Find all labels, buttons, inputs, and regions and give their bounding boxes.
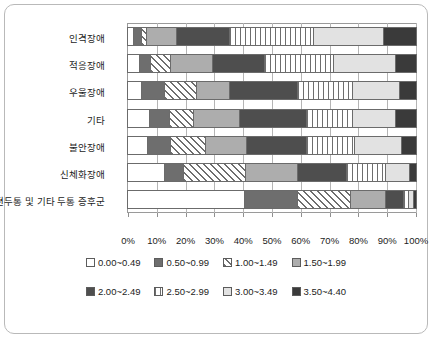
bar-segment[interactable]	[247, 137, 306, 154]
bar-segment[interactable]	[298, 82, 353, 99]
bar-segment[interactable]	[151, 55, 171, 72]
bar-segment[interactable]	[194, 110, 240, 127]
legend-item[interactable]: 0.50~0.99	[154, 257, 209, 268]
bar-segment[interactable]	[298, 191, 351, 208]
bar-segment[interactable]	[240, 110, 306, 127]
bar-segment[interactable]	[396, 110, 416, 127]
stacked-bar[interactable]	[127, 163, 417, 182]
category-label: 인격장애	[0, 31, 105, 45]
bar-segment[interactable]	[351, 191, 386, 208]
bar-row	[127, 81, 417, 100]
tick-mark	[301, 213, 302, 217]
bar-segment[interactable]	[177, 28, 230, 45]
bar-segment[interactable]	[213, 55, 265, 72]
bar-segment[interactable]	[128, 191, 245, 208]
bar-segment[interactable]	[402, 137, 416, 154]
stacked-bar[interactable]	[127, 81, 417, 100]
bar-segment[interactable]	[400, 82, 416, 99]
legend-label: 2.00~2.49	[98, 286, 141, 297]
category-label: 적응장애	[0, 58, 105, 72]
bar-segment[interactable]	[353, 110, 396, 127]
legend-item[interactable]: 2.50~2.99	[154, 286, 209, 297]
bar-segment[interactable]	[150, 110, 171, 127]
tick-mark	[387, 213, 388, 217]
bar-segment[interactable]	[353, 82, 401, 99]
bar-row	[127, 136, 417, 155]
bar-segment[interactable]	[128, 164, 165, 181]
bar-segment[interactable]	[171, 137, 206, 154]
stacked-bar[interactable]	[127, 136, 417, 155]
tick-mark	[128, 213, 129, 217]
bar-segment[interactable]	[197, 82, 230, 99]
x-tick-label: 70%	[320, 235, 339, 246]
legend-item[interactable]: 1.50~1.99	[292, 257, 347, 268]
legend-swatch	[154, 258, 163, 267]
bar-segment[interactable]	[128, 55, 140, 72]
bar-segment[interactable]	[206, 137, 248, 154]
legend-swatch	[154, 287, 163, 296]
bar-segment[interactable]	[128, 110, 150, 127]
bar-segment[interactable]	[245, 191, 298, 208]
legend-swatch	[223, 258, 232, 267]
bar-segment[interactable]	[314, 28, 385, 45]
bar-segment[interactable]	[298, 164, 347, 181]
x-tick-label: 40%	[234, 235, 253, 246]
stacked-bar[interactable]	[127, 27, 417, 46]
tick-mark	[186, 213, 187, 217]
legend-label: 3.00~3.49	[235, 286, 278, 297]
x-tick-label: 100%	[404, 235, 428, 246]
tick-mark	[330, 213, 331, 217]
legend-label: 0.00~0.49	[98, 257, 141, 268]
bar-segment[interactable]	[128, 137, 148, 154]
bar-segment[interactable]	[165, 82, 197, 99]
legend-row-1: 0.00~0.490.50~0.991.00~1.491.50~1.99	[5, 257, 427, 268]
x-tick-label: 60%	[291, 235, 310, 246]
bar-segment[interactable]	[307, 110, 353, 127]
legend-label: 0.50~0.99	[166, 257, 209, 268]
category-label: 신체화장애	[0, 167, 105, 181]
legend-item[interactable]: 0.00~0.49	[86, 257, 141, 268]
bar-segment[interactable]	[246, 164, 298, 181]
bar-segment[interactable]	[410, 164, 416, 181]
x-tick-label: 90%	[378, 235, 397, 246]
bar-segment[interactable]	[142, 82, 165, 99]
x-tick-label: 30%	[205, 235, 224, 246]
bar-segment[interactable]	[347, 164, 386, 181]
bar-segment[interactable]	[265, 55, 334, 72]
legend-label: 2.50~2.99	[166, 286, 209, 297]
bar-segment[interactable]	[134, 28, 143, 45]
bar-segment[interactable]	[128, 82, 142, 99]
bar-segment[interactable]	[230, 28, 314, 45]
bar-segment[interactable]	[165, 164, 184, 181]
legend-swatch	[292, 258, 301, 267]
legend-item[interactable]: 1.00~1.49	[223, 257, 278, 268]
bar-segment[interactable]	[334, 55, 396, 72]
bar-segment[interactable]	[147, 28, 177, 45]
legend-item[interactable]: 2.00~2.49	[86, 286, 141, 297]
bar-segment[interactable]	[386, 191, 405, 208]
chart-frame: 0%10%20%30%40%50%60%70%80%90%100% 인격장애적응…	[4, 4, 428, 334]
bar-segment[interactable]	[384, 28, 416, 45]
bar-segment[interactable]	[171, 55, 213, 72]
legend-item[interactable]: 3.50~4.40	[292, 286, 347, 297]
legend-item[interactable]: 3.00~3.49	[223, 286, 278, 297]
legend-label: 1.00~1.49	[235, 257, 278, 268]
tick-mark	[416, 213, 417, 217]
bar-segment[interactable]	[184, 164, 246, 181]
legend-label: 1.50~1.99	[304, 257, 347, 268]
stacked-bar[interactable]	[127, 109, 417, 128]
legend-swatch	[86, 287, 95, 296]
bar-segment[interactable]	[230, 82, 298, 99]
bar-segment[interactable]	[414, 191, 415, 208]
stacked-bar[interactable]	[127, 190, 417, 209]
bar-segment[interactable]	[307, 137, 356, 154]
legend-label: 3.50~4.40	[304, 286, 347, 297]
bar-segment[interactable]	[140, 55, 152, 72]
bar-segment[interactable]	[170, 110, 194, 127]
bar-segment[interactable]	[396, 55, 416, 72]
bar-segment[interactable]	[386, 164, 410, 181]
bar-segment[interactable]	[148, 137, 171, 154]
stacked-bar[interactable]	[127, 54, 417, 73]
category-label: 불안장애	[0, 140, 105, 154]
bar-segment[interactable]	[355, 137, 401, 154]
